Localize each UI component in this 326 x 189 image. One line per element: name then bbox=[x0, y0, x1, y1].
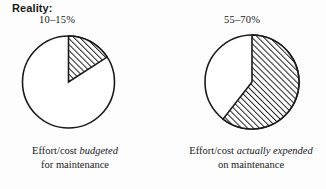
right-pie-hatched-slice bbox=[223, 35, 299, 129]
right-pie-outline bbox=[205, 35, 299, 129]
right-pie-caption: Effort/cost actually expended on mainten… bbox=[176, 144, 326, 171]
right-caption-line-2: on maintenance bbox=[176, 158, 326, 172]
figure-heading: Reality: bbox=[12, 2, 53, 14]
left-pie-chart bbox=[23, 36, 115, 128]
right-pie-chart bbox=[205, 35, 299, 129]
right-caption-line-1: Effort/cost actually expended bbox=[176, 144, 326, 158]
left-caption-line-2: for maintenance bbox=[0, 158, 150, 172]
left-pie-percent-label: 10–15% bbox=[39, 14, 75, 25]
figure-reality-maintenance-effort: Reality: 10–15% 55–70% Effort/cost budge… bbox=[0, 0, 326, 189]
left-pie-outline bbox=[23, 36, 115, 128]
left-caption-emphasis: budgeted bbox=[79, 145, 118, 156]
left-pie-hatched-slice bbox=[69, 36, 108, 82]
right-caption-prefix: Effort/cost bbox=[189, 145, 236, 156]
right-pie-percent-label: 55–70% bbox=[224, 14, 260, 25]
left-pie-caption: Effort/cost budgeted for maintenance bbox=[0, 144, 150, 171]
right-caption-emphasis: actually expended bbox=[237, 145, 313, 156]
left-caption-prefix: Effort/cost bbox=[32, 145, 79, 156]
left-caption-line-1: Effort/cost budgeted bbox=[0, 144, 150, 158]
